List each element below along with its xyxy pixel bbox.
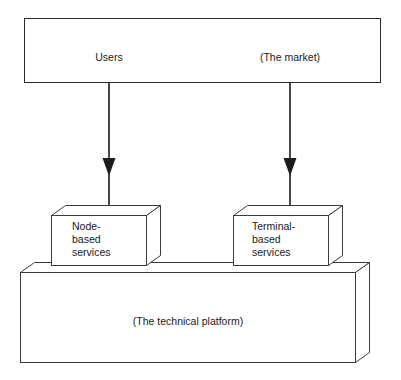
node-box-top-face [52,206,161,216]
node-box-line-3: services [72,246,111,258]
terminal-box-line-3: services [252,246,291,258]
node-box-line-1: Node- [72,220,101,232]
terminal-box-line-1: Terminal- [252,220,296,232]
node-box-right-face [147,206,161,266]
architecture-diagram: Users (The market) (The technical platfo… [0,0,401,380]
platform-right-face [356,263,370,363]
terminal-box-top-face [234,206,343,216]
terminal-box-line-2: based [252,233,281,245]
terminal-based-services-box: Terminal- based services [234,206,343,266]
users-market-rectangle [25,19,381,83]
diagram-canvas: Users (The market) (The technical platfo… [0,0,401,380]
technical-platform-slab: (The technical platform) [21,263,370,363]
arrow-users-to-node [103,83,116,216]
arrow-market-to-terminal [284,83,297,216]
market-label: (The market) [260,51,320,63]
terminal-box-right-face [329,206,343,266]
users-market-band: Users (The market) [25,19,381,83]
users-label: Users [95,51,122,63]
node-based-services-box: Node- based services [52,206,161,266]
node-box-line-2: based [72,233,101,245]
platform-label: (The technical platform) [133,315,243,327]
